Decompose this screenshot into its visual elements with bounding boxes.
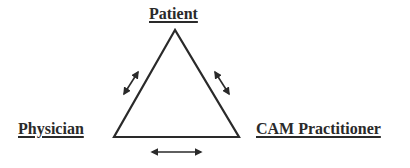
relationship-triangle-diagram [0, 0, 410, 168]
triangle-shape [114, 30, 239, 137]
double-arrow-patient-cam-icon [215, 72, 229, 94]
double-arrow-patient-physician-icon [124, 72, 138, 94]
